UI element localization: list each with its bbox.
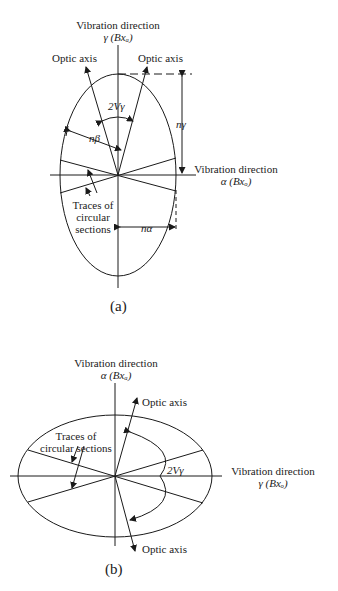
b-traces-label: Traces of circular sections — [38, 430, 114, 454]
b-right-label: Vibration direction γ (Bxₒ) — [227, 465, 319, 489]
a-optic-axis-left-label: Optic axis — [52, 52, 97, 64]
a-right-label: Vibration direction α (Bxₒ) — [190, 163, 282, 187]
clipped-caption-line — [0, 585, 338, 591]
a-optic-axis-right-label: Optic axis — [138, 52, 183, 64]
a-n-beta-label: nβ — [89, 132, 100, 144]
b-optic-axis-bottom-label: Optic axis — [142, 543, 187, 555]
b-caption: (b) — [105, 561, 123, 578]
a-n-alpha-label: nα — [141, 222, 152, 234]
diagram-b — [10, 383, 222, 551]
a-angle-label: 2Vγ — [108, 100, 125, 112]
b-optic-axis-top-label: Optic axis — [142, 396, 187, 408]
optic-axis-bottom-b — [115, 476, 135, 551]
b-top-label: Vibration direction α (Bxₐ) — [70, 357, 162, 381]
a-top-label: Vibration direction γ (Bxₐ) — [72, 19, 164, 43]
optic-axis-top-b — [115, 398, 137, 476]
a-traces-label: Traces of circular sections — [68, 199, 118, 235]
indicatrix-diagram — [0, 0, 338, 591]
diagram-a — [50, 45, 196, 288]
a-caption: (a) — [110, 298, 127, 315]
a-n-gamma-label: nγ — [176, 118, 186, 130]
b-angle-label: 2Vγ — [167, 464, 184, 476]
